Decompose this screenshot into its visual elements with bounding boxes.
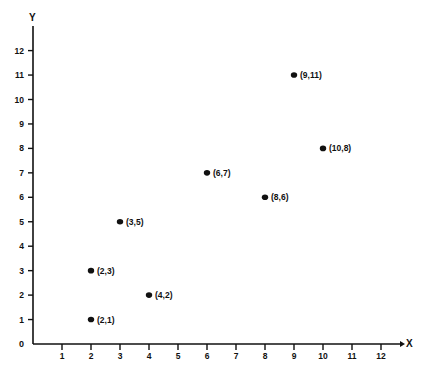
point-label: (9,11) bbox=[300, 70, 322, 80]
point-label: (4,2) bbox=[155, 290, 173, 300]
point-marker-icon bbox=[262, 195, 268, 201]
y-tick-label: 5 bbox=[19, 217, 24, 227]
x-tick-label: 8 bbox=[263, 351, 268, 361]
x-tick-label: 11 bbox=[348, 351, 357, 361]
x-tick-label: 6 bbox=[205, 351, 210, 361]
x-tick-label: 1 bbox=[60, 351, 65, 361]
data-point: (8,6) bbox=[262, 192, 289, 202]
plot-area: 123456789101112 123456789101112 (2,1)(2,… bbox=[0, 0, 423, 373]
x-tick-label: 9 bbox=[292, 351, 297, 361]
point-marker-icon bbox=[88, 268, 94, 274]
point-label: (8,6) bbox=[271, 192, 289, 202]
x-tick-label: 12 bbox=[376, 351, 386, 361]
y-tick-label: 1 bbox=[19, 315, 24, 325]
y-tick-label: 11 bbox=[15, 70, 24, 80]
data-point: (4,2) bbox=[146, 290, 173, 300]
data-point: (9,11) bbox=[291, 70, 322, 80]
y-tick-label: 10 bbox=[15, 95, 25, 105]
point-marker-icon bbox=[291, 72, 297, 78]
x-tick-label: 4 bbox=[147, 351, 152, 361]
x-tick-label: 7 bbox=[234, 351, 239, 361]
point-label: (2,3) bbox=[97, 266, 115, 276]
y-tick-label: 4 bbox=[19, 241, 24, 251]
x-axis-arrow-icon bbox=[400, 341, 405, 347]
x-axis-ticks: 123456789101112 bbox=[60, 344, 386, 361]
x-tick-label: 2 bbox=[89, 351, 94, 361]
data-point: (3,5) bbox=[117, 217, 144, 227]
x-tick-label: 10 bbox=[318, 351, 328, 361]
data-point: (6,7) bbox=[204, 168, 231, 178]
axes bbox=[33, 26, 405, 347]
y-axis-label: Y bbox=[29, 12, 36, 23]
data-point: (2,1) bbox=[88, 315, 115, 325]
y-tick-label: 2 bbox=[19, 290, 24, 300]
y-tick-label: 8 bbox=[19, 143, 24, 153]
x-tick-label: 5 bbox=[176, 351, 181, 361]
point-marker-icon bbox=[88, 317, 94, 323]
x-tick-label: 3 bbox=[118, 351, 123, 361]
point-marker-icon bbox=[204, 170, 210, 176]
y-tick-label: 3 bbox=[19, 266, 24, 276]
origin-label: 0 bbox=[19, 339, 24, 349]
y-tick-label: 9 bbox=[19, 119, 24, 129]
point-marker-icon bbox=[146, 292, 152, 298]
point-marker-icon bbox=[320, 146, 326, 152]
data-point: (2,3) bbox=[88, 266, 115, 276]
point-label: (3,5) bbox=[126, 217, 144, 227]
point-marker-icon bbox=[117, 219, 123, 225]
scatter-chart: 123456789101112 123456789101112 (2,1)(2,… bbox=[0, 0, 423, 373]
y-tick-label: 6 bbox=[19, 192, 24, 202]
x-axis-label: X bbox=[406, 338, 413, 349]
data-point: (10,8) bbox=[320, 143, 352, 153]
y-axis-ticks: 123456789101112 bbox=[15, 46, 33, 325]
y-tick-label: 7 bbox=[19, 168, 24, 178]
point-label: (2,1) bbox=[97, 315, 115, 325]
data-points: (2,1)(2,3)(3,5)(4,2)(6,7)(8,6)(9,11)(10,… bbox=[88, 70, 352, 324]
point-label: (10,8) bbox=[329, 143, 351, 153]
y-tick-label: 12 bbox=[15, 46, 25, 56]
point-label: (6,7) bbox=[213, 168, 231, 178]
